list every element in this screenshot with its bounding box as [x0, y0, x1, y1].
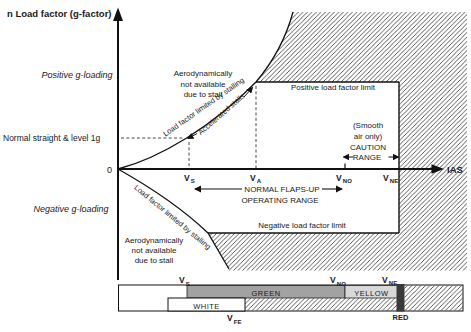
asi-vno-sub: NO	[337, 281, 346, 287]
aero-na-bottom-line2: not available	[132, 246, 177, 255]
caution-line4: RANGE	[353, 153, 381, 162]
caution-line3: CAUTION	[350, 143, 386, 152]
asi-white-label: WHITE	[193, 302, 220, 311]
va-axis-label: V	[250, 173, 256, 183]
vne-axis-sub: NE	[390, 178, 398, 184]
asi-vne-label: V	[382, 275, 388, 285]
asi-vfe-label: V	[227, 313, 233, 323]
aero-na-bottom-line1: Aerodynamically	[125, 236, 184, 245]
diagram-title: n Load factor (g-factor)	[7, 8, 112, 19]
asi-hatch-bottom	[245, 298, 463, 311]
aero-na-bottom-line3: due to stall	[135, 256, 174, 265]
normal-level-label: Normal straight & level 1g	[3, 133, 101, 143]
vno-axis-sub: NO	[343, 178, 352, 184]
positive-g-label: Positive g-loading	[41, 70, 112, 80]
asi-green-label: GREEN	[251, 289, 280, 298]
asi-vno-label: V	[330, 275, 336, 285]
hatch-region-outside-envelope	[208, 12, 467, 271]
vno-axis-label: V	[336, 173, 342, 183]
asi-yellow-label: YELLOW	[354, 289, 389, 298]
aero-na-top-line1: Aerodynamically	[174, 69, 233, 78]
airspeed-indicator-bar: GREEN YELLOW WHITE RED V S V NO V NE V F…	[119, 275, 464, 325]
asi-red-line	[397, 284, 405, 312]
vne-axis-label: V	[383, 173, 389, 183]
aero-na-top-line2: not available	[181, 80, 226, 89]
caution-line2: air only)	[354, 132, 383, 141]
va-axis-sub: A	[257, 178, 262, 184]
vs-axis-label: V	[184, 173, 190, 183]
vn-diagram-figure: n Load factor (g-factor) IAS 0 Positive …	[0, 0, 471, 332]
y-axis-arrowhead	[113, 8, 123, 22]
asi-hatch-top	[405, 286, 463, 299]
asi-vfe-sub: FE	[234, 319, 242, 325]
negative-limit-label: Negative load factor limit	[258, 221, 346, 230]
negative-g-label: Negative g-loading	[33, 204, 108, 214]
asi-red-label: RED	[393, 313, 409, 322]
flaps-range-line2: OPERATING RANGE	[241, 196, 318, 205]
asi-vs-sub: S	[186, 281, 190, 287]
vn-diagram-svg: n Load factor (g-factor) IAS 0 Positive …	[0, 0, 471, 332]
ias-axis-label: IAS	[447, 164, 463, 175]
origin-label: 0	[107, 165, 112, 175]
vs-axis-sub: S	[191, 178, 195, 184]
flaps-range-line1: NORMAL FLAPS-UP	[244, 185, 319, 194]
caution-line1: (Smooth	[353, 121, 383, 130]
asi-vs-label: V	[179, 275, 185, 285]
positive-limit-label: Positive load factor limit	[291, 83, 376, 92]
asi-vne-sub: NE	[389, 280, 397, 286]
